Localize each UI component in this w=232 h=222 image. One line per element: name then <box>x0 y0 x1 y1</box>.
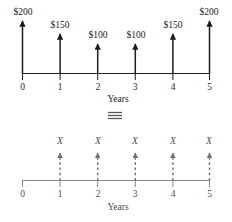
timeline-diagram-canvas <box>0 0 232 222</box>
top-timeline-group <box>22 21 210 80</box>
bottom-timeline-group <box>22 153 210 187</box>
cash-flow-equivalence-figure: $200 $150 $100 $100 $150 $200 0 1 2 3 4 … <box>0 0 232 222</box>
equivalence-symbol-icon <box>108 113 122 119</box>
